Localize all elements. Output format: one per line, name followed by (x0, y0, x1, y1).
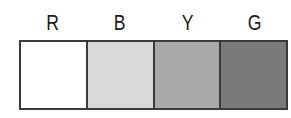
swatch-cell-r (21, 42, 88, 108)
swatch-label-y: Y (160, 9, 214, 37)
swatch-cell-y (155, 42, 222, 108)
swatch-cell-b (88, 42, 155, 108)
swatch-labels: R B Y G (19, 9, 288, 37)
swatch-label-b: B (93, 9, 147, 37)
swatch-cell-g (221, 42, 286, 108)
swatch-label-g: G (227, 9, 281, 37)
swatch-strip (19, 40, 288, 110)
swatch-label-r: R (26, 9, 80, 37)
